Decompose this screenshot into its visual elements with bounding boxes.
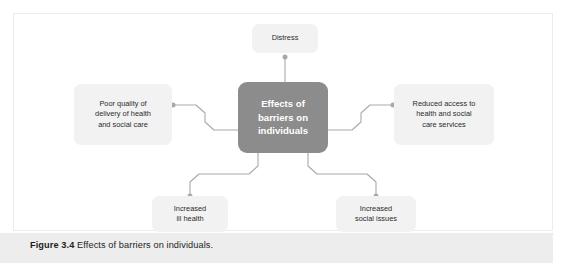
node-distress-label: Distress [272, 33, 299, 43]
figure-page: Effects of barriers on individuals Distr… [0, 0, 566, 273]
node-center-effects-of-barriers[interactable]: Effects of barriers on individuals [238, 82, 328, 153]
connector-increased-ill-health [190, 153, 258, 196]
node-increased-social-issues-label: Increased social issues [355, 204, 397, 224]
node-increased-ill-health-label: Increased ill health [174, 204, 206, 224]
connector-poor-quality [173, 105, 238, 130]
figure-caption: Figure 3.4 Effects of barriers on indivi… [30, 240, 213, 250]
node-center-label: Effects of barriers on individuals [258, 97, 308, 138]
node-poor-quality-label: Poor quality of delivery of health and s… [95, 99, 151, 130]
node-increased-social-issues[interactable]: Increased social issues [336, 196, 416, 232]
figure-caption-body: Effects of barriers on individuals. [74, 240, 213, 250]
connector-increased-social-issues [308, 153, 376, 196]
connector-reduced-access [328, 105, 393, 130]
node-distress[interactable]: Distress [252, 24, 318, 53]
connector-dot-distress [283, 55, 288, 60]
node-reduced-access-label: Reduced access to health and social care… [413, 99, 476, 130]
node-reduced-access[interactable]: Reduced access to health and social care… [394, 84, 494, 145]
node-poor-quality-of-delivery[interactable]: Poor quality of delivery of health and s… [74, 84, 172, 145]
figure-caption-label: Figure 3.4 [30, 240, 74, 250]
node-increased-ill-health[interactable]: Increased ill health [152, 196, 228, 232]
